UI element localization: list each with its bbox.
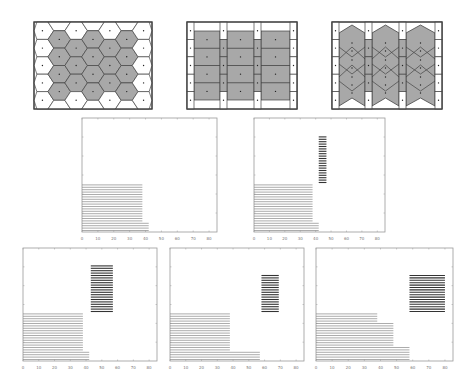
- svg-text:30: 30: [68, 365, 74, 370]
- svg-text:70: 70: [131, 365, 137, 370]
- svg-text:60: 60: [115, 365, 121, 370]
- svg-text:80: 80: [147, 365, 153, 370]
- svg-text:60: 60: [344, 236, 350, 241]
- svg-text:30: 30: [362, 365, 368, 370]
- svg-text:0: 0: [169, 365, 172, 370]
- svg-text:50: 50: [329, 236, 335, 241]
- svg-text:70: 70: [359, 236, 365, 241]
- svg-text:10: 10: [183, 365, 189, 370]
- svg-text:40: 40: [378, 365, 384, 370]
- svg-text:20: 20: [199, 365, 205, 370]
- schedule-plot-3: 01020304050607080: [12, 245, 162, 382]
- svg-text:50: 50: [394, 365, 400, 370]
- svg-text:0: 0: [315, 365, 318, 370]
- svg-text:60: 60: [262, 365, 268, 370]
- svg-text:20: 20: [111, 236, 117, 241]
- svg-text:20: 20: [282, 236, 288, 241]
- voronoi-hexagonal-panel: [33, 21, 153, 110]
- svg-text:40: 40: [313, 236, 319, 241]
- svg-text:0: 0: [81, 236, 84, 241]
- svg-text:20: 20: [52, 365, 58, 370]
- svg-text:10: 10: [330, 365, 336, 370]
- svg-text:30: 30: [127, 236, 133, 241]
- svg-text:10: 10: [267, 236, 273, 241]
- schedule-plot-2: 01020304050607080: [243, 115, 393, 248]
- svg-text:80: 80: [294, 365, 300, 370]
- svg-text:10: 10: [95, 236, 101, 241]
- svg-text:80: 80: [375, 236, 381, 241]
- svg-text:0: 0: [253, 236, 256, 241]
- svg-text:50: 50: [159, 236, 165, 241]
- svg-text:10: 10: [36, 365, 42, 370]
- svg-text:50: 50: [246, 365, 252, 370]
- svg-text:40: 40: [231, 365, 237, 370]
- svg-text:30: 30: [298, 236, 304, 241]
- voronoi-rectangular-panel: [186, 21, 298, 110]
- svg-text:70: 70: [426, 365, 432, 370]
- svg-text:0: 0: [22, 365, 25, 370]
- svg-text:20: 20: [346, 365, 352, 370]
- svg-text:70: 70: [278, 365, 284, 370]
- svg-text:30: 30: [215, 365, 221, 370]
- svg-text:80: 80: [442, 365, 448, 370]
- svg-text:60: 60: [175, 236, 181, 241]
- schedule-plot-4: 01020304050607080: [160, 245, 310, 382]
- schedule-plot-1: 01020304050607080: [70, 115, 225, 248]
- svg-text:40: 40: [84, 365, 90, 370]
- schedule-plot-5: 01020304050607080: [305, 245, 460, 382]
- svg-text:70: 70: [191, 236, 197, 241]
- svg-text:60: 60: [410, 365, 416, 370]
- svg-text:40: 40: [143, 236, 149, 241]
- svg-text:50: 50: [99, 365, 105, 370]
- svg-text:80: 80: [207, 236, 213, 241]
- voronoi-chevron-panel: [331, 21, 443, 110]
